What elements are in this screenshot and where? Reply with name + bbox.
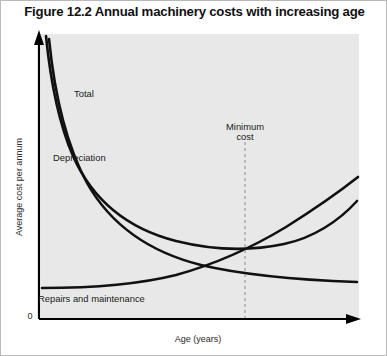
plot-background xyxy=(41,34,359,319)
chart-plot-area: Average cost per annum Age (years) 0 Tot… xyxy=(1,1,387,356)
minimum-cost-label-line2: cost xyxy=(236,131,254,142)
series-label-repairs-and-maintenance: Repairs and maintenance xyxy=(38,293,145,304)
origin-label: 0 xyxy=(27,311,32,321)
x-axis-label: Age (years) xyxy=(175,334,222,344)
y-axis-label: Average cost per annum xyxy=(14,138,24,236)
series-label-total: Total xyxy=(74,88,94,99)
series-label-depreciation: Depreciation xyxy=(53,152,106,163)
figure-container: Figure 12.2 Annual machinery costs with … xyxy=(0,0,387,356)
